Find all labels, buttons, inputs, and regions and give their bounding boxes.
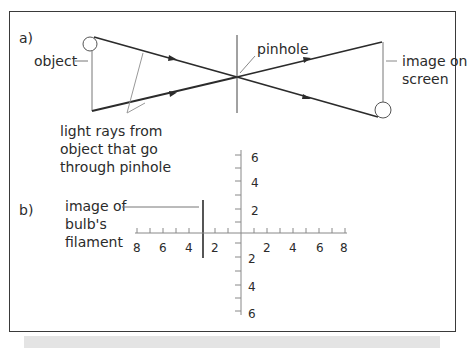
x-tick-label: 4 <box>185 241 193 255</box>
image-label-line1: image on <box>402 53 468 69</box>
image-icon <box>375 42 391 118</box>
pinhole-label: pinhole <box>257 41 309 57</box>
y-tick-label: 4 <box>248 280 256 294</box>
filament-label-line2: bulb's <box>65 216 107 232</box>
filament-label-line1: image of <box>65 198 128 214</box>
rays-label-line2: object that go <box>60 141 158 157</box>
arrow-icon <box>302 94 311 99</box>
x-tick-label: 2 <box>211 241 219 255</box>
pinhole-leader-line <box>240 56 255 73</box>
x-tick-label: 4 <box>289 241 297 255</box>
part-b-label: b) <box>19 202 33 218</box>
y-tick-label: 4 <box>251 176 259 190</box>
object-label: object <box>34 53 78 69</box>
y-tick-label: 6 <box>251 151 259 165</box>
x-tick-label: 6 <box>316 241 324 255</box>
y-tick-label: 2 <box>248 252 256 266</box>
y-tick-label: 6 <box>248 307 256 321</box>
rays-label-line1: light rays from <box>60 123 162 139</box>
y-tick-label: 2 <box>251 204 259 218</box>
object-icon <box>83 37 97 111</box>
filament-label-line3: filament <box>65 234 123 250</box>
x-tick-label: 8 <box>340 241 348 255</box>
part-a-label: a) <box>19 30 33 46</box>
x-tick-label: 2 <box>263 241 271 255</box>
x-tick-label: 6 <box>159 241 167 255</box>
image-label-line2: screen <box>402 71 449 87</box>
rays-leader-line <box>127 53 145 113</box>
x-tick-label: 8 <box>133 241 141 255</box>
rays-label-line3: through pinhole <box>60 159 171 175</box>
